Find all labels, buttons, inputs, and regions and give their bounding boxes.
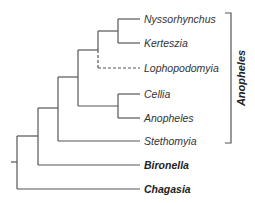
clade-label-anopheles: Anopheles — [235, 50, 247, 107]
phylogenetic-tree: Nyssorhynchus Kerteszia Lophopodomyia Ce… — [0, 0, 255, 203]
taxon-lophopodomyia: Lophopodomyia — [144, 62, 219, 74]
taxon-cellia: Cellia — [144, 88, 170, 100]
taxon-chagasia: Chagasia — [144, 183, 191, 195]
taxon-bironella: Bironella — [144, 159, 189, 171]
taxon-anopheles: Anopheles — [143, 112, 194, 124]
clade-bracket — [225, 13, 231, 143]
taxon-nyssorhynchus: Nyssorhynchus — [144, 13, 217, 25]
taxon-stethomyia: Stethomyia — [144, 135, 197, 147]
taxon-kerteszia: Kerteszia — [144, 37, 188, 49]
